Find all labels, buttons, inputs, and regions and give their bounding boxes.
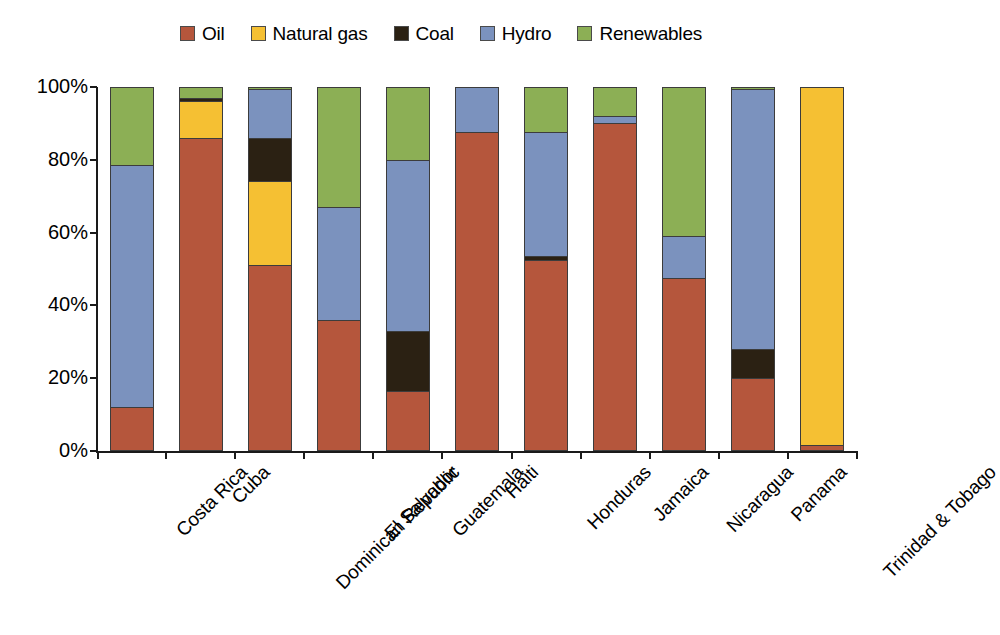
y-axis-tick [90, 377, 97, 379]
legend-label: Renewables [599, 24, 702, 43]
bar-segment-oil [111, 408, 153, 450]
x-axis-tick [856, 451, 858, 459]
bar-jamaica[interactable] [593, 87, 637, 451]
bar-segment-oil [249, 266, 291, 450]
y-axis-tick [90, 86, 97, 88]
bar-segment-renewables [318, 87, 360, 208]
x-axis-tick [787, 451, 789, 459]
legend-item-hydro: Hydro [480, 24, 552, 43]
legend-item-oil: Oil [180, 24, 225, 43]
y-axis-tick-label: 20% [48, 367, 88, 387]
bar-segment-oil [318, 321, 360, 450]
bar-segment-natural-gas [249, 182, 291, 266]
x-axis-label: Panama [788, 462, 851, 525]
bar-segment-coal [732, 350, 774, 379]
y-axis-tick [90, 232, 97, 234]
bar-segment-oil [456, 133, 498, 450]
bar-cuba[interactable] [179, 87, 223, 451]
bar-segment-natural-gas [801, 87, 843, 446]
legend-swatch-icon [394, 26, 409, 41]
x-axis-tick [649, 451, 651, 459]
x-axis-tick [372, 451, 374, 459]
x-axis-label: Jamaica [649, 462, 711, 524]
chart-legend: OilNatural gasCoalHydroRenewables [0, 24, 882, 43]
bar-segment-oil [663, 279, 705, 450]
bar-segment-renewables [180, 87, 222, 99]
bar-segment-hydro [594, 117, 636, 124]
bar-costa-rica[interactable] [110, 87, 154, 451]
bar-segment-hydro [318, 208, 360, 321]
bar-segment-renewables [525, 87, 567, 133]
legend-swatch-icon [251, 26, 266, 41]
bar-honduras[interactable] [524, 87, 568, 451]
bar-segment-hydro [387, 161, 429, 332]
bar-segment-renewables [594, 87, 636, 117]
bar-segment-natural-gas [180, 102, 222, 138]
legend-item-natural-gas: Natural gas [251, 24, 368, 43]
bar-dominican-republic[interactable] [248, 87, 292, 451]
y-axis-tick-label: 0% [59, 440, 88, 460]
bar-segment-oil [732, 379, 774, 450]
x-axis-tick [511, 451, 513, 459]
x-axis-tick [303, 451, 305, 459]
legend-swatch-icon [577, 26, 592, 41]
y-axis-tick-label: 40% [48, 294, 88, 314]
bar-nicaragua[interactable] [662, 87, 706, 451]
y-axis-tick-label: 80% [48, 149, 88, 169]
bar-segment-oil [525, 261, 567, 450]
x-axis-tick [165, 451, 167, 459]
bar-segment-oil [594, 124, 636, 450]
bar-segment-renewables [111, 87, 153, 166]
plot-area: 0%20%40%60%80%100% [97, 87, 857, 451]
x-axis-label: Nicaragua [723, 462, 796, 535]
x-axis-tick [234, 451, 236, 459]
bar-segment-coal [249, 139, 291, 183]
bar-segment-coal [387, 332, 429, 392]
bar-segment-oil [180, 139, 222, 450]
bar-segment-renewables [387, 87, 429, 161]
bar-segment-hydro [663, 237, 705, 279]
legend-label: Natural gas [273, 24, 368, 43]
x-axis-tick [441, 451, 443, 459]
bar-panama[interactable] [731, 87, 775, 451]
x-axis-tick [580, 451, 582, 459]
legend-label: Coal [416, 24, 454, 43]
legend-swatch-icon [480, 26, 495, 41]
bar-segment-renewables [663, 87, 705, 237]
bar-trinidad-tobago[interactable] [800, 87, 844, 451]
x-axis-label: Honduras [584, 462, 655, 533]
bar-segment-hydro [732, 90, 774, 350]
bar-segment-oil [387, 392, 429, 450]
legend-swatch-icon [180, 26, 195, 41]
y-axis-tick [90, 159, 97, 161]
bar-el-salvador[interactable] [317, 87, 361, 451]
x-axis-tick [718, 451, 720, 459]
y-axis-tick [90, 304, 97, 306]
x-axis-label: Trinidad & Tobago [880, 462, 999, 581]
bar-segment-hydro [249, 90, 291, 139]
bar-segment-hydro [525, 133, 567, 257]
bar-haiti[interactable] [455, 87, 499, 451]
bar-guatemala[interactable] [386, 87, 430, 451]
y-axis-tick [90, 450, 97, 452]
bar-segment-hydro [111, 166, 153, 408]
y-axis-tick-label: 100% [37, 76, 88, 96]
x-axis-tick [97, 451, 99, 459]
legend-label: Hydro [502, 24, 552, 43]
x-axis-line [96, 451, 858, 453]
legend-label: Oil [202, 24, 225, 43]
y-axis-tick-label: 60% [48, 222, 88, 242]
legend-item-coal: Coal [394, 24, 454, 43]
bar-segment-oil [801, 446, 843, 450]
bar-segment-hydro [456, 87, 498, 133]
legend-item-renewables: Renewables [577, 24, 702, 43]
x-axis-label: El Salvador [381, 462, 462, 543]
